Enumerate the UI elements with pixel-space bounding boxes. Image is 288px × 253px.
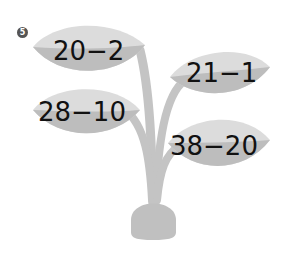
pot bbox=[131, 204, 176, 241]
question-number-badge: 5 bbox=[17, 27, 28, 38]
leaf-expression-2: 21−1 bbox=[186, 58, 257, 88]
leaf-expression-3: 28−10 bbox=[38, 97, 126, 127]
leaf-expression-1: 20−2 bbox=[53, 36, 124, 66]
leaf-expression-4: 38−20 bbox=[170, 131, 258, 161]
